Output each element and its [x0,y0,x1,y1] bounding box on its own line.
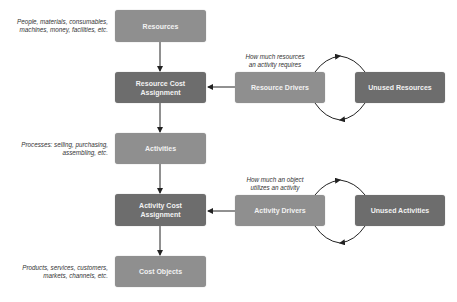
unused-activities-box: Unused Activities [355,195,445,226]
cost-objects-box: Cost Objects [115,256,206,287]
activities-box: Activities [115,133,206,164]
activity-drivers-label: Activity Drivers [254,206,305,215]
resource-drivers-note: How much resources an activity requires [240,53,310,69]
resources-note-line2: machines, money, facilities, etc. [2,26,108,34]
unused-activities-label: Unused Activities [371,206,429,215]
activity-drivers-note-line1: How much an object [240,176,310,184]
cost-objects-note-line2: markets, channels, etc. [2,272,108,280]
cost-objects-note-line1: Products, services, customers, [2,264,108,272]
resources-label: Resources [143,22,179,31]
resource-drivers-label: Resource Drivers [251,83,309,92]
activity-drivers-box: Activity Drivers [235,195,325,226]
resource-cost-assignment-box: Resource Cost Assignment [115,72,206,103]
resource-drivers-box: Resource Drivers [235,72,325,103]
resource-drivers-note-line2: an activity requires [240,61,310,69]
activity-drivers-note: How much an object utilizes an activity [240,176,310,192]
cost-objects-note: Products, services, customers, markets, … [2,264,108,280]
unused-resources-box: Unused Resources [355,72,445,103]
cost-objects-label: Cost Objects [139,267,182,276]
activity-cost-assignment-label: Activity Cost Assignment [133,201,188,219]
activities-note: Processes: selling, purchasing, assembli… [2,141,108,157]
unused-resources-label: Unused Resources [368,83,431,92]
resources-box: Resources [115,10,206,42]
activities-note-line2: assembling, etc. [2,149,108,157]
resource-cost-assignment-label: Resource Cost Assignment [131,79,191,97]
resource-drivers-note-line1: How much resources [240,53,310,61]
activities-note-line1: Processes: selling, purchasing, [2,141,108,149]
activities-label: Activities [145,144,176,153]
resources-note: People, materials, consumables, machines… [2,18,108,34]
activity-cost-assignment-box: Activity Cost Assignment [115,194,206,226]
resources-note-line1: People, materials, consumables, [2,18,108,26]
activity-drivers-note-line2: utilizes an activity [240,184,310,192]
